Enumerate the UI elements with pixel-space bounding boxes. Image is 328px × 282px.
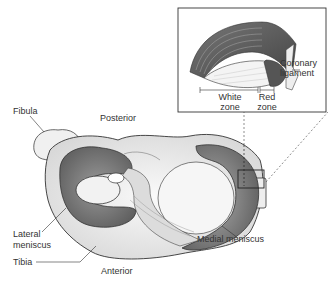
ligament-attachment bbox=[108, 173, 124, 183]
label-white-zone-line1: White bbox=[210, 92, 250, 102]
label-white-zone-line2: zone bbox=[210, 102, 250, 112]
label-anterior: Anterior bbox=[101, 266, 133, 276]
label-fibula: Fibula bbox=[13, 106, 38, 116]
label-red-zone-line2: zone bbox=[254, 102, 280, 112]
label-coronary-ligament-line2: ligament bbox=[280, 68, 314, 78]
leader-fibula bbox=[30, 116, 44, 132]
label-coronary-ligament-line1: Coronary bbox=[280, 58, 317, 68]
label-medial-meniscus: Medial meniscus bbox=[197, 234, 264, 244]
label-posterior: Posterior bbox=[100, 113, 136, 123]
label-lateral-meniscus-line1: Lateral bbox=[13, 229, 41, 239]
zoom-line-lower bbox=[266, 112, 328, 182]
label-tibia: Tibia bbox=[13, 257, 32, 267]
knee-meniscus-diagram: Fibula Posterior Lateral meniscus Tibia … bbox=[0, 0, 328, 282]
label-red-zone-line1: Red bbox=[254, 92, 280, 102]
label-lateral-meniscus-line2: meniscus bbox=[13, 240, 51, 250]
